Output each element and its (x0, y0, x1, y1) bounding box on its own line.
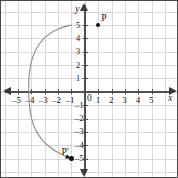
point-label: P′ (61, 148, 68, 158)
plotted-point-marker (69, 156, 73, 160)
parabolic-arc-path (29, 25, 72, 159)
coordinate-plane-figure: –5–4–3–2–11234554321–1–2–3–4–5 0 x y PP′ (0, 0, 178, 178)
curve-layer (1, 1, 178, 178)
point-label: P (101, 14, 106, 24)
